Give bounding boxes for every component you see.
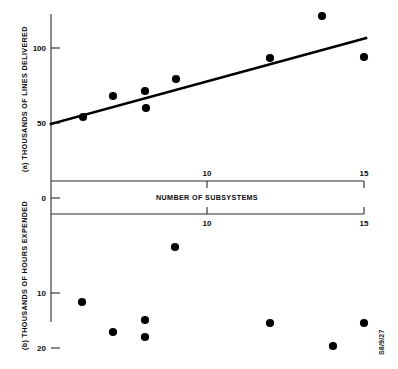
- panel-a-ytick-label-50: 50: [37, 119, 46, 128]
- panel-b-data-point: [141, 333, 149, 341]
- x-axis-title: NUMBER OF SUBSYSTEMS: [156, 193, 258, 202]
- x-axis-lower-tick-label-15: 15: [360, 219, 369, 228]
- panel-a-ytick-label-100: 100: [33, 44, 47, 53]
- panel-a-data-point: [109, 92, 117, 100]
- panel-b-data-point: [360, 319, 368, 327]
- panel-a-data-point: [79, 113, 87, 121]
- panel-b-data-point: [141, 316, 149, 324]
- panel-b-ytick-label-20: 20: [37, 344, 46, 353]
- panel-a-data-point: [142, 104, 150, 112]
- panel-a-data-point: [266, 54, 274, 62]
- panel-b-data-point: [109, 328, 117, 336]
- panel-b-ytick-label-0: 0: [42, 194, 47, 203]
- figure-page: 100 50 (a) THOUSANDS OF LINES DELIVERED: [0, 0, 398, 369]
- panel-a-data-point: [141, 87, 149, 95]
- panel-a-group: 100 50 (a) THOUSANDS OF LINES DELIVERED: [20, 12, 368, 181]
- x-axis-upper-tick-label-15: 15: [360, 169, 369, 178]
- panel-a-y-axis-title: (a) THOUSANDS OF LINES DELIVERED: [20, 26, 29, 172]
- panel-b-ytick-label-10: 10: [37, 289, 46, 298]
- corner-mark-label: S8/9/27: [378, 329, 385, 355]
- panel-a-data-point: [172, 75, 180, 83]
- panel-b-data-point: [266, 319, 274, 327]
- shared-x-axis-band: 10 15 10 15 NUMBER OF SUBSYSTEMS: [51, 169, 369, 228]
- two-panel-scatter-figure: 100 50 (a) THOUSANDS OF LINES DELIVERED: [0, 0, 398, 369]
- panel-b-data-point: [329, 342, 337, 350]
- panel-a-trend-line: [51, 38, 366, 124]
- panel-a-data-point: [360, 53, 368, 61]
- panel-b-group: 0 10 20 (b) THOUSANDS OF HOURS EXPENDED: [20, 181, 368, 353]
- x-axis-upper-tick-label-10: 10: [203, 169, 212, 178]
- panel-a-data-point: [318, 12, 326, 20]
- panel-b-data-point: [78, 298, 86, 306]
- x-axis-lower-tick-label-10: 10: [203, 219, 212, 228]
- panel-b-y-axis-title: (b) THOUSANDS OF HOURS EXPENDED: [20, 201, 29, 350]
- panel-b-data-point: [171, 243, 179, 251]
